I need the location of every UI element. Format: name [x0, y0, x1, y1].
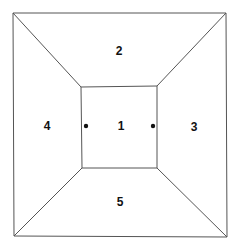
right-dot: [151, 124, 155, 128]
region-label-2: 2: [116, 44, 123, 58]
region-label-4: 4: [44, 119, 51, 133]
diagonal-bottom-left: [14, 168, 82, 236]
region-label-3: 3: [191, 120, 198, 134]
five-region-square-diagram: 1 2 3 4 5: [0, 0, 236, 251]
diagonal-top-left: [13, 13, 81, 87]
region-label-5: 5: [117, 195, 124, 209]
diagonal-top-right: [157, 13, 226, 86]
left-dot: [84, 124, 88, 128]
region-label-1: 1: [118, 119, 125, 133]
diagonal-bottom-right: [157, 168, 227, 237]
